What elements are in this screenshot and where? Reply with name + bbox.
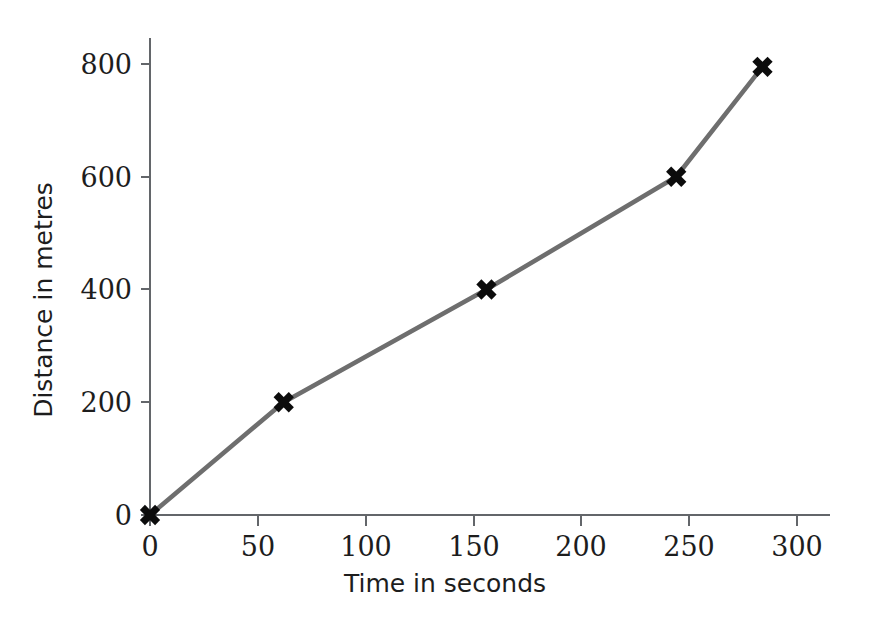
- x-tick-label-150: 150: [448, 531, 500, 562]
- x-tick-label-300: 300: [771, 531, 823, 562]
- y-tick-label-200: 200: [80, 387, 132, 418]
- y-tick-label-0: 0: [115, 500, 132, 531]
- x-tick-label-200: 200: [555, 531, 607, 562]
- x-tick-label-250: 250: [663, 531, 715, 562]
- chart-canvas: 0 200 400 600 800 0 50 100 150 200 250 3…: [0, 0, 873, 633]
- y-axis-title: Distance in metres: [29, 182, 58, 418]
- x-tick-label-100: 100: [340, 531, 392, 562]
- y-tick-label-600: 600: [80, 162, 132, 193]
- y-tick-label-400: 400: [80, 274, 132, 305]
- y-tick-label-800: 800: [80, 49, 132, 80]
- x-tick-label-50: 50: [241, 531, 275, 562]
- x-axis-title: Time in seconds: [343, 569, 546, 598]
- x-tick-label-0: 0: [141, 531, 158, 562]
- line-chart: 0 200 400 600 800 0 50 100 150 200 250 3…: [0, 0, 873, 633]
